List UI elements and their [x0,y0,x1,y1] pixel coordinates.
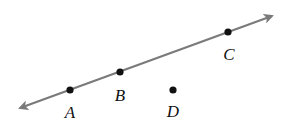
point-c-dot [224,28,231,35]
point-label-c: C [223,46,234,63]
point-label-b: B [115,87,125,104]
point-label-a: A [65,104,75,121]
line-diagram [0,0,291,136]
point-b-dot [116,68,123,75]
point-label-d: D [167,103,179,120]
point-d-dot [169,86,176,93]
geometry-figure: A B C D [0,0,291,136]
point-a-dot [66,86,73,93]
